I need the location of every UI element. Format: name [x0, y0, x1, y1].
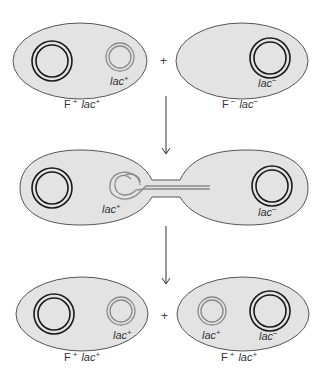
donor-cell: lac+: [13, 23, 147, 99]
plus-operator: +: [161, 309, 168, 323]
down-arrow-icon: [162, 96, 170, 154]
stage-conjugation: lac+ lac−: [20, 150, 308, 225]
donor-genotype-label: F+lac+: [64, 97, 100, 110]
down-arrow-icon: [162, 226, 170, 284]
donor-cell: lac+: [16, 277, 148, 351]
stage-after: lac+ F+lac+ + lac+ lac− F+lac+: [16, 277, 309, 363]
recipient-genotype-label: F−lac−: [222, 97, 258, 110]
recipient-cell: lac−: [176, 23, 308, 99]
exconjugant-genotype-label: F+lac+: [221, 350, 257, 363]
plus-operator: +: [160, 54, 167, 68]
exconjugant-cell: lac+ lac−: [177, 277, 309, 351]
donor-genotype-label: F+lac+: [64, 350, 100, 363]
conjugation-diagram: lac+ F+lac+ + lac− F−lac− lac+: [0, 0, 326, 384]
stage-before: lac+ F+lac+ + lac− F−lac−: [13, 23, 308, 110]
